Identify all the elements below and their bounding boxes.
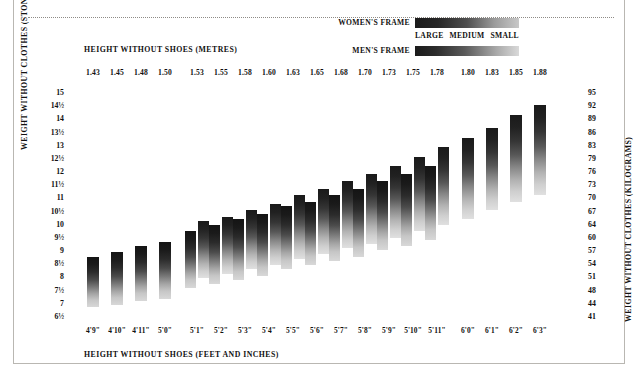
bar-women-4	[185, 231, 197, 288]
y-tick-stones-3: 13½	[34, 128, 64, 137]
x-axis-top-ticks: 1.431.451.481.501.531.551.581.601.631.65…	[75, 68, 562, 80]
y-tick-kg-4: 83	[588, 141, 616, 150]
x-tick-metres-18: 1.88	[526, 68, 554, 77]
y-tick-kg-17: 41	[588, 312, 616, 321]
bar-men-13	[414, 157, 426, 231]
y-tick-stones-2: 14	[34, 114, 64, 123]
x-tick-feet-18: 6'3"	[525, 326, 555, 335]
bar-men-8	[294, 195, 306, 258]
legend-size-scale: LARGE MEDIUM SMALL	[415, 31, 519, 40]
legend-row-mens-frame: MEN'S FRAME	[415, 46, 519, 56]
axis-title-left: WEIGHT WITHOUT CLOTHES (STONES)	[20, 0, 29, 150]
bar-men-18	[534, 105, 546, 196]
bar-women-8	[281, 206, 293, 269]
bar-women-2	[135, 246, 147, 301]
x-tick-feet-14: 5'11"	[422, 326, 452, 335]
bar-men-14	[438, 147, 450, 225]
bar-men-12	[390, 166, 402, 238]
bar-men-16	[486, 128, 498, 210]
y-tick-stones-9: 10½	[34, 207, 64, 216]
bar-women-6	[233, 219, 245, 280]
y-tick-stones-5: 12½	[34, 154, 64, 163]
y-tick-stones-7: 11½	[34, 180, 64, 189]
y-tick-stones-15: 7½	[34, 286, 64, 295]
y-tick-kg-12: 57	[588, 246, 616, 255]
y-tick-stones-13: 8½	[34, 259, 64, 268]
y-tick-kg-8: 70	[588, 193, 616, 202]
y-tick-kg-13: 54	[588, 259, 616, 268]
y-tick-kg-10: 64	[588, 220, 616, 229]
axis-title-top: HEIGHT WITHOUT SHOES (METRES)	[84, 45, 237, 54]
x-tick-metres-14: 1.78	[423, 68, 451, 77]
y-tick-kg-3: 86	[588, 128, 616, 137]
bar-women-0	[87, 257, 99, 308]
y-axis-left-ticks: 1514½1413½1312½1211½1110½109½98½87½76½	[34, 92, 64, 320]
x-tick-feet-3: 5'0"	[150, 326, 180, 335]
y-axis-right-ticks: 959289868379767370676460575451484441	[588, 92, 616, 320]
bar-women-9	[305, 202, 317, 265]
bar-men-15	[462, 138, 474, 218]
legend-size-medium: MEDIUM	[449, 31, 484, 40]
y-tick-stones-10: 10	[34, 220, 64, 229]
y-tick-kg-1: 92	[588, 101, 616, 110]
y-tick-stones-12: 9	[34, 246, 64, 255]
y-tick-stones-1: 14½	[34, 101, 64, 110]
bar-women-14	[425, 166, 437, 240]
legend-label-womens-frame: WOMEN'S FRAME	[338, 17, 410, 28]
y-tick-stones-4: 13	[34, 141, 64, 150]
y-tick-kg-2: 89	[588, 114, 616, 123]
legend-size-small: SMALL	[490, 31, 519, 40]
bar-men-9	[318, 189, 330, 254]
bar-women-7	[257, 214, 269, 275]
bar-women-11	[353, 189, 365, 257]
y-tick-kg-7: 73	[588, 180, 616, 189]
x-axis-bottom-ticks: 4'9"4'10"4'11"5'0"5'1"5'2"5'3"5'4"5'5"5'…	[75, 326, 562, 338]
chart-page: WOMEN'S FRAME LARGE MEDIUM SMALL MEN'S F…	[0, 0, 640, 388]
y-tick-stones-8: 11	[34, 193, 64, 202]
y-tick-stones-17: 6½	[34, 312, 64, 321]
legend-label-mens-frame: MEN'S FRAME	[352, 45, 410, 56]
bar-women-3	[159, 242, 171, 299]
legend-gradient-womens-frame	[415, 18, 519, 28]
bar-men-7	[270, 204, 282, 265]
bar-men-11	[366, 174, 378, 244]
legend-gradient-mens-frame	[415, 46, 519, 56]
axis-title-right: WEIGHT WITHOUT CLOTHES (KILOGRAMS)	[624, 137, 633, 322]
bar-men-5	[222, 217, 234, 274]
bar-women-12	[377, 181, 389, 251]
y-tick-kg-0: 95	[588, 88, 616, 97]
bar-women-5	[209, 225, 221, 284]
bar-women-10	[329, 195, 341, 260]
bar-men-17	[510, 115, 522, 202]
y-tick-kg-14: 51	[588, 272, 616, 281]
plot-area	[75, 92, 562, 320]
bar-men-6	[246, 210, 258, 269]
bar-women-1	[111, 252, 123, 305]
y-tick-kg-15: 48	[588, 286, 616, 295]
y-tick-kg-5: 79	[588, 154, 616, 163]
legend: WOMEN'S FRAME LARGE MEDIUM SMALL MEN'S F…	[415, 18, 620, 56]
y-tick-stones-6: 12	[34, 167, 64, 176]
y-tick-kg-11: 60	[588, 233, 616, 242]
y-tick-kg-6: 76	[588, 167, 616, 176]
axis-title-bottom: HEIGHT WITHOUT SHOES (FEET AND INCHES)	[84, 350, 279, 359]
bar-men-4	[198, 221, 210, 278]
bar-men-10	[342, 181, 354, 249]
y-tick-kg-9: 67	[588, 207, 616, 216]
y-tick-kg-16: 44	[588, 299, 616, 308]
bar-women-13	[401, 174, 413, 246]
y-tick-stones-0: 15	[34, 88, 64, 97]
y-tick-stones-16: 7	[34, 299, 64, 308]
x-tick-metres-3: 1.50	[151, 68, 179, 77]
y-tick-stones-14: 8	[34, 272, 64, 281]
y-tick-stones-11: 9½	[34, 233, 64, 242]
legend-row-womens-frame: WOMEN'S FRAME	[415, 18, 519, 28]
legend-size-large: LARGE	[415, 31, 444, 40]
